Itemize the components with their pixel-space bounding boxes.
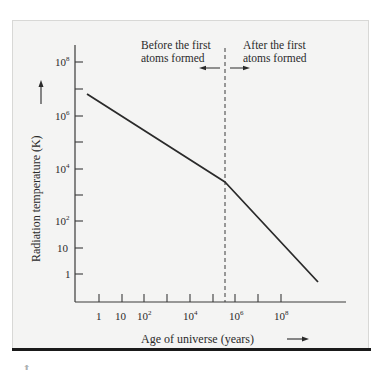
svg-text:1: 1 [96, 310, 102, 322]
svg-text:atoms formed: atoms formed [243, 52, 307, 64]
svg-text:108: 108 [274, 309, 289, 322]
x-axis-arrow-icon [287, 337, 309, 342]
x-ticks [99, 294, 281, 302]
svg-text:10: 10 [115, 310, 127, 322]
y-ticks [75, 62, 83, 274]
annotation-before: Before the first atoms formed [141, 39, 211, 64]
svg-text:108: 108 [55, 55, 70, 68]
svg-text:Before the first: Before the first [141, 39, 211, 51]
y-axis-arrow-icon [39, 80, 44, 104]
right-arrow-icon [230, 66, 250, 70]
y-tick-labels: 108 106 104 102 10 1 [55, 55, 71, 280]
svg-text:10: 10 [57, 242, 69, 254]
temperature-curve [87, 94, 318, 282]
svg-text:atoms formed: atoms formed [141, 52, 205, 64]
x-tick-labels: 1 10 102 104 106 108 [96, 309, 289, 322]
x-axis-label: Age of universe (years) [141, 332, 254, 346]
svg-text:106: 106 [55, 109, 70, 122]
left-arrow-icon [199, 66, 220, 70]
svg-text:102: 102 [55, 214, 70, 227]
svg-text:104: 104 [183, 309, 198, 322]
y-axis-label: Radiation temperature (K) [29, 135, 43, 262]
svg-text:102: 102 [137, 309, 152, 322]
annotation-after: After the first atoms formed [243, 39, 307, 64]
svg-text:After the first: After the first [243, 39, 306, 51]
svg-text:1: 1 [65, 268, 71, 280]
bottom-rule [12, 348, 371, 351]
chart-svg: 108 106 104 102 10 1 1 10 102 104 106 10… [0, 0, 387, 376]
corner-mark: ·||||· [24, 363, 28, 371]
svg-text:104: 104 [55, 162, 70, 175]
svg-text:106: 106 [229, 309, 244, 322]
